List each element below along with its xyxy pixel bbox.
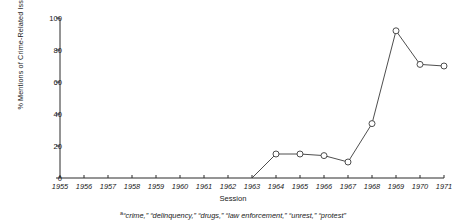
- footnote-text: “crime,” “delinquency,” “drugs,” “law en…: [123, 211, 346, 220]
- y-tick-label-40: 40: [30, 110, 62, 119]
- data-point-1967: [345, 159, 351, 165]
- y-tick-label-80: 80: [30, 46, 62, 55]
- y-tick-label-20: 20: [30, 142, 62, 151]
- y-axis-title: % Mentions of Crime-Related Issuesa: [15, 0, 25, 127]
- chart-figure: % Mentions of Crime-Related Issuesa 100 …: [0, 0, 466, 224]
- x-axis-title: Session: [0, 194, 466, 203]
- data-point-1970: [417, 61, 423, 67]
- data-series-markers: [273, 28, 447, 165]
- chart-footnote: a“crime,” “delinquency,” “drugs,” “law e…: [0, 210, 466, 220]
- data-point-1965: [297, 151, 303, 157]
- data-series-line: [252, 31, 444, 178]
- data-point-1969: [393, 28, 399, 34]
- axis-lines: [60, 18, 444, 178]
- data-point-1964: [273, 151, 279, 157]
- y-tick-marks: [56, 18, 60, 178]
- y-tick-label-100: 100: [30, 14, 62, 23]
- x-tick-label-1971: 1971: [429, 182, 459, 191]
- y-tick-label-60: 60: [30, 78, 62, 87]
- data-point-1966: [321, 153, 327, 159]
- y-axis-title-text: % Mentions of Crime-Related Issues: [16, 0, 25, 110]
- data-point-1971: [441, 63, 447, 69]
- data-point-1968: [369, 121, 375, 127]
